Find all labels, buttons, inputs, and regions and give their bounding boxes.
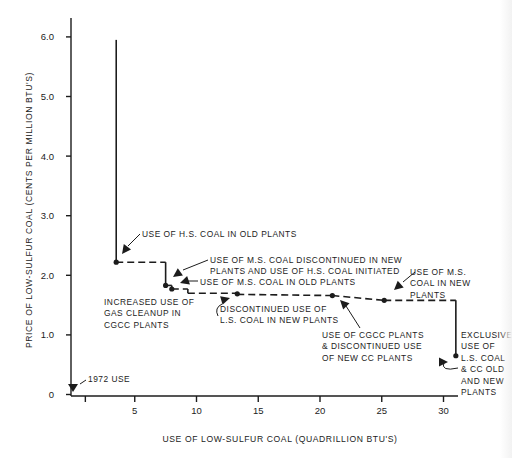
- annotation-line: PLANTS: [410, 290, 446, 300]
- annotation-text: USE OF CGCC PLANTS& DISCONTINUED USEOF N…: [322, 330, 424, 363]
- arrow-head-icon: [122, 244, 131, 254]
- y-tick-label: 5.0: [41, 91, 54, 102]
- annotation-ms-coal-new: USE OF M.S.COAL IN NEWPLANTS: [394, 267, 471, 300]
- annotation-1972-use: 1972 USE: [68, 374, 130, 392]
- annotation-line: AND NEW: [461, 376, 504, 386]
- annotation-line: OF NEW CC PLANTS: [322, 353, 413, 363]
- annotation-hs-coal-old: USE OF H.S. COAL IN OLD PLANTS: [122, 229, 297, 254]
- data-point: [169, 286, 174, 291]
- annotation-text: DISCONTINUED USE OFL.S. COAL IN NEW PLAN…: [220, 304, 339, 325]
- annotation-line: INCREASED USE OF: [104, 297, 194, 307]
- annotation-gas-cleanup: INCREASED USE OFGAS CLEANUP INCGCC PLANT…: [104, 297, 194, 330]
- y-tick-label: 4.0: [41, 151, 54, 162]
- annotation-cgcc-plants: USE OF CGCC PLANTS& DISCONTINUED USEOF N…: [322, 300, 424, 363]
- annotation-line: PLANTS AND USE OF H.S. COAL INITIATED: [210, 266, 400, 276]
- annotation-text: USE OF M.S. COAL DISCONTINUED IN NEWPLAN…: [210, 255, 402, 276]
- annotation-line: & CC OLD: [461, 364, 505, 374]
- data-point: [235, 291, 240, 296]
- annotation-leader: [183, 260, 208, 270]
- x-tick-label: 25: [376, 405, 387, 416]
- x-tick-label: 20: [315, 405, 326, 416]
- annotation-leader: [128, 234, 140, 246]
- annotation-line: 1972 USE: [88, 374, 130, 384]
- x-tick-label: 10: [191, 405, 202, 416]
- annotation-text: USE OF M.S.COAL IN NEWPLANTS: [410, 267, 471, 300]
- annotations: 1972 USEUSE OF H.S. COAL IN OLD PLANTSUS…: [68, 229, 512, 397]
- x-ticks: 51015202530: [85, 396, 448, 416]
- annotation-text: USE OF H.S. COAL IN OLD PLANTS: [142, 229, 297, 239]
- annotation-line: GAS CLEANUP IN: [104, 308, 181, 318]
- annotation-leader: [80, 380, 86, 384]
- arrow-head-icon: [180, 276, 190, 285]
- y-tick-label: 0: [49, 389, 54, 400]
- x-axis-title: USE OF LOW-SULFUR COAL (QUADRILLION BTU'…: [162, 434, 397, 444]
- page-edge-shadow: [500, 0, 512, 458]
- dashed-segment: [237, 294, 332, 295]
- y-tick-label: 1.0: [41, 329, 54, 340]
- annotation-line: L.S. COAL: [461, 353, 506, 363]
- x-tick-label: 5: [132, 405, 137, 416]
- annotation-line: USE OF M.S. COAL DISCONTINUED IN NEW: [210, 255, 402, 265]
- arrow-head-icon: [173, 268, 183, 277]
- arrow-head-icon: [340, 300, 350, 310]
- y-axis-title: PRICE OF LOW-SULFUR COAL (CENTS PER MILL…: [24, 72, 34, 348]
- dashed-segment: [332, 296, 384, 301]
- x-tick-label: 30: [438, 405, 449, 416]
- annotation-ms-coal-old: USE OF M.S. COAL IN OLD PLANTS: [180, 276, 356, 287]
- annotation-ls-discontinued: DISCONTINUED USE OFL.S. COAL IN NEW PLAN…: [217, 296, 339, 325]
- data-point: [453, 353, 458, 358]
- annotation-line: DISCONTINUED USE OF: [220, 304, 327, 314]
- annotation-line: USE OF M.S.: [410, 267, 466, 277]
- annotation-line: USE OF: [461, 341, 495, 351]
- annotation-text: 1972 USE: [88, 374, 130, 384]
- step-chart: 01.02.03.04.05.06.0 51015202530 USE OF L…: [0, 0, 512, 458]
- x-tick-label: 15: [253, 405, 264, 416]
- data-point: [382, 298, 387, 303]
- annotation-line: & DISCONTINUED USE: [322, 341, 422, 351]
- annotation-line: CGCC PLANTS: [104, 320, 169, 330]
- annotation-text: INCREASED USE OFGAS CLEANUP INCGCC PLANT…: [104, 297, 194, 330]
- annotation-line: L.S. COAL IN NEW PLANTS: [220, 315, 339, 325]
- annotation-line: COAL IN NEW: [410, 278, 471, 288]
- annotation-line: USE OF M.S. COAL IN OLD PLANTS: [200, 277, 356, 287]
- y-tick-label: 6.0: [41, 31, 54, 42]
- y-tick-label: 2.0: [41, 270, 54, 281]
- data-point: [330, 293, 335, 298]
- annotation-line: USE OF H.S. COAL IN OLD PLANTS: [142, 229, 297, 239]
- arrow-head-icon: [394, 281, 404, 290]
- annotation-text: USE OF M.S. COAL IN OLD PLANTS: [200, 277, 356, 287]
- arrow-head-icon: [68, 384, 78, 392]
- data-point: [163, 283, 168, 288]
- y-ticks: 01.02.03.04.05.06.0: [41, 31, 71, 400]
- y-tick-label: 3.0: [41, 210, 54, 221]
- annotation-ms-discontinued: USE OF M.S. COAL DISCONTINUED IN NEWPLAN…: [173, 255, 402, 277]
- data-point: [114, 260, 119, 265]
- annotation-line: USE OF CGCC PLANTS: [322, 330, 424, 340]
- annotation-line: PLANTS: [461, 387, 497, 397]
- annotation-leader: [346, 306, 360, 328]
